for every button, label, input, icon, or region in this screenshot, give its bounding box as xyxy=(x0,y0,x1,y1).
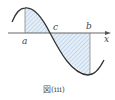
caption: 図(iii) xyxy=(43,85,65,94)
label-c: c xyxy=(53,22,58,32)
diagram: a c b x 図(iii) xyxy=(0,0,115,100)
label-b: b xyxy=(86,21,92,31)
label-a: a xyxy=(22,36,27,46)
hatched-region-negative xyxy=(50,33,90,74)
label-x: x xyxy=(104,34,109,44)
hatched-region-positive xyxy=(25,9,50,33)
